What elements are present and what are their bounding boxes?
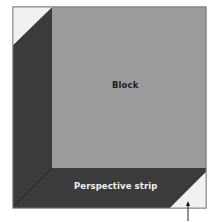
block-label: Block: [112, 80, 138, 90]
perspective-strip-label: Perspective strip: [74, 181, 157, 191]
